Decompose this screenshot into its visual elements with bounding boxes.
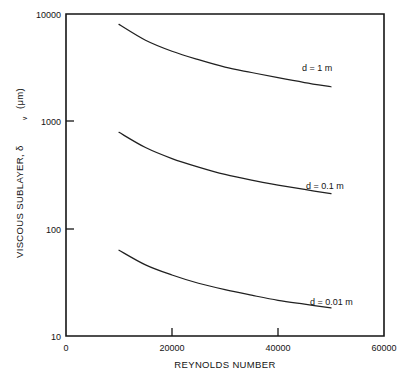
x-tick-label-20000: 20000 <box>159 343 184 353</box>
curve-label-d-0-01m: d = 0.01 m <box>310 297 353 307</box>
x-axis-title: REYNOLDS NUMBER <box>174 359 275 370</box>
y-axis-title-units: (μm) <box>14 88 25 109</box>
x-tick-label-60000: 60000 <box>371 343 396 353</box>
curve-label-d-1m: d = 1 m <box>302 63 332 73</box>
y-tick-label-10: 10 <box>51 332 61 342</box>
x-tick-label-40000: 40000 <box>265 343 290 353</box>
y-axis-title: VISCOUS SUBLAYER, δ <box>14 145 25 258</box>
y-tick-label-10000: 10000 <box>36 10 61 20</box>
y-tick-label-1000: 1000 <box>41 117 61 127</box>
curve-label-d-0-1m: d = 0.1 m <box>306 181 344 191</box>
viscous-sublayer-chart: 10000 1000 100 10 0 20000 40000 60000 RE… <box>0 0 402 377</box>
y-tick-label-100: 100 <box>46 225 61 235</box>
x-tick-label-0: 0 <box>63 343 68 353</box>
